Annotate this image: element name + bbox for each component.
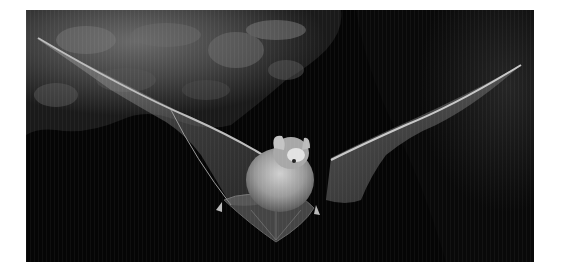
bat-illustration xyxy=(26,10,534,262)
bat-photo xyxy=(26,10,534,262)
